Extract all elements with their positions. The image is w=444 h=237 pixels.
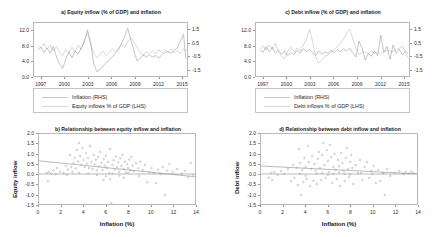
y-tick-mark	[253, 77, 255, 78]
x-tick-mark	[286, 77, 287, 79]
legend-item: Inflation (RHS)	[264, 93, 329, 101]
legend-label: Inflation (RHS)	[72, 94, 107, 100]
y-tick-mark	[253, 61, 255, 62]
y-tick-mark	[253, 46, 255, 47]
x-tick-label: 12	[163, 209, 183, 215]
x-tick-label: 2006	[320, 81, 346, 87]
x-tick-mark	[88, 77, 89, 79]
panel-c-series-svg	[256, 23, 409, 76]
legend-line-swatch	[42, 106, 68, 107]
y-tick-mark	[36, 154, 38, 155]
x-tick-mark	[381, 77, 382, 79]
x-tick-label: 6	[96, 209, 116, 215]
y-tick-mark	[36, 133, 38, 134]
x-tick-label: 0	[250, 209, 270, 215]
x-tick-label: 14	[408, 209, 428, 215]
x-tick-label: 2009	[122, 81, 148, 87]
x-tick-label: 1997	[250, 81, 276, 87]
x-tick-mark	[173, 205, 174, 207]
y2-tick-mark	[410, 43, 412, 44]
y2-tick-mark	[188, 43, 190, 44]
y-tick-mark	[253, 30, 255, 31]
x-tick-label: 0	[28, 209, 48, 215]
x-tick-label: 12	[385, 209, 405, 215]
x-tick-label: 2015	[391, 81, 417, 87]
panel-c-debt-timeseries: c) Debt inflow (% of GDP) and inflation …	[222, 0, 444, 120]
y-tick-mark	[258, 195, 260, 196]
y-tick-label: 0.0	[224, 74, 251, 80]
legend-line-swatch	[264, 97, 290, 98]
panel-d-debt-scatter: d) Relationship between debt inflow and …	[222, 120, 444, 237]
legend-line-swatch	[264, 106, 290, 107]
y2-tick-label: -1.5	[192, 67, 218, 73]
y-tick-mark	[258, 184, 260, 185]
y2-tick-mark	[188, 70, 190, 71]
y-tick-mark	[258, 143, 260, 144]
y2-tick-mark	[188, 56, 190, 57]
y2-tick-mark	[410, 29, 412, 30]
panel-c-title: c) Debt inflow (% of GDP) and inflation	[285, 9, 381, 15]
x-tick-label: 2	[51, 209, 71, 215]
x-tick-mark	[310, 77, 311, 79]
x-tick-mark	[106, 205, 107, 207]
x-tick-mark	[260, 205, 261, 207]
panel-a-legend: Inflation (RHS) Equity inflows % of GDP …	[33, 88, 188, 113]
x-tick-label: 2003	[297, 81, 323, 87]
x-tick-mark	[64, 77, 65, 79]
x-tick-mark	[404, 77, 405, 79]
x-tick-label: 2009	[344, 81, 370, 87]
x-tick-mark	[182, 77, 183, 79]
x-tick-label: 1997	[28, 81, 54, 87]
y-tick-label: -1.5	[10, 202, 34, 208]
panel-d-scatter-svg	[261, 134, 417, 204]
y-tick-label: 1.0	[232, 151, 256, 157]
y2-tick-label: 0.5	[414, 40, 440, 46]
x-tick-mark	[38, 205, 39, 207]
y2-tick-mark	[410, 56, 412, 57]
y2-tick-label: 0.5	[192, 40, 218, 46]
y-tick-label: -1.5	[232, 202, 256, 208]
panel-d-y-axis-label: Debt inflow	[234, 162, 240, 194]
y-tick-mark	[258, 133, 260, 134]
x-tick-label: 8	[118, 209, 138, 215]
y-tick-label: 0.0	[2, 74, 29, 80]
x-tick-mark	[135, 77, 136, 79]
y2-tick-mark	[410, 70, 412, 71]
x-tick-mark	[111, 77, 112, 79]
panel-d-x-axis-label: Inflation (%)	[322, 221, 356, 227]
legend-label: Debt inflows % of GDP (LHS)	[294, 103, 364, 109]
y-tick-label: 1.0	[10, 151, 34, 157]
x-tick-mark	[151, 205, 152, 207]
x-tick-label: 2003	[75, 81, 101, 87]
y2-tick-label: 1.5	[192, 26, 218, 32]
x-tick-mark	[159, 77, 160, 79]
panel-b-equity-scatter: b) Relationship between equity inflow an…	[0, 120, 222, 237]
legend-line-swatch	[42, 97, 68, 98]
panel-a-series-svg	[34, 23, 187, 76]
x-tick-label: 10	[141, 209, 161, 215]
x-tick-mark	[328, 205, 329, 207]
x-tick-mark	[418, 205, 419, 207]
x-tick-label: 2012	[146, 81, 172, 87]
x-tick-label: 2000	[273, 81, 299, 87]
x-tick-mark	[357, 77, 358, 79]
panel-a-title: a) Equity inflow (% of GDP) and inflatio…	[61, 9, 161, 15]
x-tick-label: 4	[73, 209, 93, 215]
legend-item: Debt inflows % of GDP (LHS)	[264, 102, 364, 110]
panel-c-legend: Inflation (RHS) Debt inflows % of GDP (L…	[255, 88, 410, 113]
panel-b-plot-area	[38, 133, 196, 205]
y-tick-mark	[258, 154, 260, 155]
y-tick-label: 4.0	[224, 58, 251, 64]
legend-item: Equity inflows % of GDP (LHS)	[42, 102, 146, 110]
x-tick-mark	[196, 205, 197, 207]
x-tick-mark	[61, 205, 62, 207]
x-tick-mark	[283, 205, 284, 207]
y-tick-label: 12.0	[2, 27, 29, 33]
y-tick-label: 4.0	[2, 58, 29, 64]
y-tick-label: 1.5	[232, 140, 256, 146]
y-tick-label: 8.0	[224, 43, 251, 49]
y-tick-mark	[36, 174, 38, 175]
x-tick-mark	[41, 77, 42, 79]
panel-b-x-axis-label: Inflation (%)	[100, 221, 134, 227]
legend-item: Inflation (RHS)	[42, 93, 107, 101]
